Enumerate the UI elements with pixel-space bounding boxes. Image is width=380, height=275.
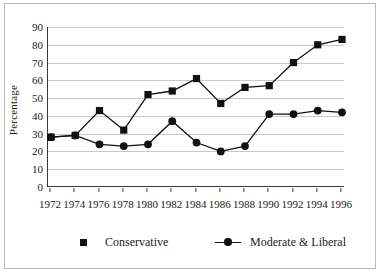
data-point: [338, 108, 346, 116]
legend-item-conservative: Conservative: [70, 232, 168, 252]
y-axis-tick-60: 60: [32, 75, 43, 86]
data-point: [217, 100, 224, 107]
y-axis-tick-labels: 0102030405060708090: [22, 22, 46, 194]
x-tick-mark: [122, 188, 123, 192]
x-axis-tick-labels: 1972197419761978198019821984198619881990…: [30, 198, 360, 216]
data-point: [290, 59, 297, 66]
data-point: [266, 82, 273, 89]
x-axis-tick-1984: 1984: [185, 198, 207, 211]
y-axis-tick-80: 80: [32, 39, 43, 50]
data-point: [241, 142, 249, 150]
data-point: [338, 36, 345, 43]
x-tick-mark: [74, 188, 75, 192]
series-lines: [48, 27, 345, 187]
x-tick-mark: [49, 188, 50, 192]
x-axis-tick-1992: 1992: [282, 198, 304, 211]
x-tick-mark: [243, 188, 244, 192]
y-axis-tick-50: 50: [32, 93, 43, 104]
x-tick-mark: [268, 188, 269, 192]
data-point: [168, 117, 176, 125]
x-axis-tick-1978: 1978: [112, 198, 134, 211]
x-axis-tick-1974: 1974: [63, 198, 85, 211]
data-point: [193, 139, 201, 147]
series-line-conservative: [51, 39, 342, 137]
y-axis-label-text: Percentage: [7, 85, 19, 135]
x-axis-tick-1972: 1972: [39, 198, 61, 211]
x-axis-tick-1980: 1980: [136, 198, 158, 211]
y-axis-label: Percentage: [2, 60, 24, 160]
data-point: [47, 133, 55, 141]
x-tick-mark: [195, 188, 196, 192]
chart-legend: Conservative Moderate & Liberal: [40, 232, 345, 252]
x-axis-tick-1982: 1982: [160, 198, 182, 211]
x-tick-mark: [171, 188, 172, 192]
x-axis-tick-1988: 1988: [233, 198, 255, 211]
x-tick-mark: [292, 188, 293, 192]
x-axis-tick-1976: 1976: [88, 198, 110, 211]
y-axis-tick-20: 20: [32, 146, 43, 157]
data-point: [120, 127, 127, 134]
data-point: [144, 91, 151, 98]
plot-area: [47, 27, 344, 187]
legend-marker-square-icon: [70, 235, 96, 249]
legend-marker-circle-line-icon: [215, 235, 241, 249]
data-point: [193, 75, 200, 82]
x-axis-tick-1994: 1994: [306, 198, 328, 211]
legend-item-moderate-liberal: Moderate & Liberal: [215, 232, 346, 252]
x-tick-mark: [98, 188, 99, 192]
y-axis-tick-30: 30: [32, 128, 43, 139]
data-point: [217, 148, 225, 156]
data-point: [290, 110, 298, 118]
x-axis-tick-1996: 1996: [330, 198, 352, 211]
data-point: [96, 107, 103, 114]
x-tick-mark: [340, 188, 341, 192]
y-axis-tick-90: 90: [32, 22, 43, 33]
data-point: [71, 132, 79, 140]
data-point: [314, 41, 321, 48]
x-tick-mark: [219, 188, 220, 192]
data-point: [96, 140, 104, 148]
y-axis-tick-10: 10: [32, 164, 43, 175]
chart-figure: Percentage 0102030405060708090 197219741…: [0, 0, 380, 275]
y-axis-tick-70: 70: [32, 57, 43, 68]
x-axis-tick-1986: 1986: [209, 198, 231, 211]
data-point: [120, 142, 128, 150]
legend-label-conservative: Conservative: [105, 235, 168, 250]
x-tick-mark: [316, 188, 317, 192]
data-point: [265, 110, 273, 118]
data-point: [314, 107, 322, 115]
legend-label-moderate-liberal: Moderate & Liberal: [250, 235, 346, 250]
data-point: [241, 84, 248, 91]
x-tick-mark: [146, 188, 147, 192]
x-axis-tick-1990: 1990: [257, 198, 279, 211]
y-axis-tick-40: 40: [32, 110, 43, 121]
y-axis-tick-0: 0: [38, 182, 44, 193]
data-point: [144, 140, 152, 148]
data-point: [169, 87, 176, 94]
